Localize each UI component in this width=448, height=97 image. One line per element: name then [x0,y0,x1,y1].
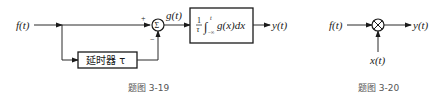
input-label-f: f(t) [16,19,30,32]
sigma-icon: Σ [155,21,160,30]
delay-block-label: 延时器 τ [86,55,125,66]
caption-3-20: 题图 3-20 [358,83,400,93]
figure-3-19: f(t) 延时器 τ Σ + − g(t) 1 τ ∫ t −∞ g(x)dx … [16,8,288,93]
figure-3-20: f(t) y(t) x(t) 题图 3-20 [329,19,429,93]
minus-sign: − [150,35,155,44]
block-diagrams: f(t) 延时器 τ Σ + − g(t) 1 τ ∫ t −∞ g(x)dx … [0,0,448,97]
plus-sign: + [141,14,146,23]
integral-lower-limit: −∞ [208,30,215,35]
integrand: g(x)dx [217,19,245,32]
sum-output-label-g: g(t) [166,9,182,22]
output-label-y: y(t) [271,19,288,32]
input-label-f: f(t) [329,19,343,32]
output-label-y: y(t) [412,19,429,32]
side-input-label-x: x(t) [369,54,386,67]
caption-3-19: 题图 3-19 [128,83,170,93]
fraction-numerator: 1 [197,16,201,25]
